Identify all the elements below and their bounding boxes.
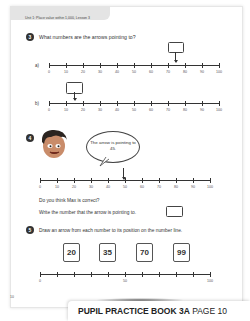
question-5-prompt: Draw an arrow from each number to its po… bbox=[39, 228, 182, 233]
part-b-label: b) bbox=[35, 101, 39, 106]
speech-bubble-tail bbox=[98, 157, 110, 167]
footer-banner: PUPIL PRACTICE BOOK 3A PAGE 10 bbox=[68, 301, 250, 321]
number-line-3b: 0102030405060708090100 bbox=[49, 100, 219, 114]
book-title: PUPIL PRACTICE BOOK 3A bbox=[78, 306, 190, 316]
question-4-instruction: Write the number that the arrow is point… bbox=[39, 210, 136, 215]
number-line-4: 0102030405060708090100 bbox=[40, 177, 210, 191]
unit-header: Unit 1: Place value within 1,000, Lesson… bbox=[25, 16, 90, 20]
number-card-99[interactable]: 99 bbox=[173, 243, 190, 262]
footer-page: PAGE 10 bbox=[192, 306, 227, 316]
max-character-illustration bbox=[39, 128, 69, 160]
question-4-question: Do you think Max is correct? bbox=[39, 198, 100, 203]
question-5-badge: 5 bbox=[26, 226, 34, 234]
answer-box-4[interactable] bbox=[166, 206, 183, 217]
number-line-3a: 0102030405060708090100 bbox=[49, 62, 219, 76]
number-card-20[interactable]: 20 bbox=[63, 243, 80, 262]
part-a-label: a) bbox=[35, 63, 39, 68]
number-card-35[interactable]: 35 bbox=[99, 243, 116, 262]
number-card-70[interactable]: 70 bbox=[136, 243, 153, 262]
question-4-badge: 4 bbox=[26, 134, 34, 142]
page-number: 10 bbox=[10, 295, 14, 299]
number-line-5: 050100 bbox=[40, 271, 210, 285]
speech-bubble: The arrow is pointing to 45. bbox=[86, 131, 140, 163]
answer-box-3a[interactable] bbox=[168, 42, 184, 53]
question-3-badge: 3 bbox=[26, 33, 34, 41]
question-3-prompt: What numbers are the arrows pointing to? bbox=[39, 34, 136, 40]
